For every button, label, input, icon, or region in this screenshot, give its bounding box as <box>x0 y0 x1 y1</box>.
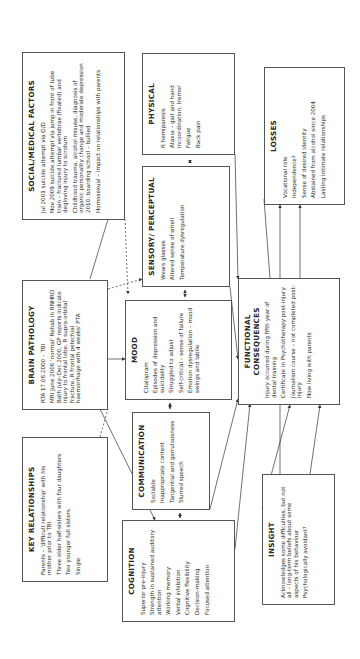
list-item: Jul 2001 suicide attempt via O/D <box>40 59 47 213</box>
list-item: Emotion dysregulation – mood swings and … <box>187 307 200 393</box>
list-item: Citalopram <box>143 307 150 393</box>
list-item: Sociable <box>150 419 157 503</box>
list-item: Ataxia – gait and hand incoordination, t… <box>169 60 182 148</box>
formulation-diagram: SOCIAL/MEDICAL FACTORS Jul 2001 suicide … <box>0 0 360 659</box>
box-title: COMMUNICATION <box>138 419 147 503</box>
list-item: Independence? <box>291 74 298 198</box>
list-item: Three older half-sisters with four daugh… <box>56 444 63 575</box>
list-item: Focused attention <box>204 527 211 615</box>
list-item: Strength in sustained auditory attention <box>149 527 162 615</box>
list-item: Now living with parents <box>306 285 313 398</box>
box-title: LOSSES <box>270 74 279 198</box>
box-title: FUNCTIONAL CONSEQUENCES <box>244 285 261 398</box>
list-item: Nov 2009 suicide attempt via jump in fro… <box>49 59 69 213</box>
list-item: Acknowledges some difficulties, but not … <box>280 481 300 598</box>
list-item: Abstained from alcohol since 2004 <box>310 74 317 198</box>
list-item: Wears glasses <box>160 173 167 280</box>
cognition-box: COGNITION Superior pre-injury Strength i… <box>122 520 235 622</box>
list-item: Lasting intimate relationships <box>320 74 327 198</box>
social-medical-factors-box: SOCIAL/MEDICAL FACTORS Jul 2001 suicide … <box>22 52 125 220</box>
box-title: COGNITION <box>128 527 137 615</box>
list-item: R hemiparesis <box>160 60 167 148</box>
list-item: Parents – 'difficult relationship' with … <box>40 444 53 575</box>
list-item: Journalism course – not completed post-i… <box>290 285 303 398</box>
list-item: Injury occurred during fifth year of den… <box>264 285 277 398</box>
losses-box: LOSSES Vocational role Independence? Sen… <box>264 67 345 205</box>
insight-box: INSIGHT Acknowledges some difficulties, … <box>262 474 335 605</box>
box-title: SOCIAL/MEDICAL FACTORS <box>28 59 37 213</box>
sensory-perceptual-box: SENSORY/ PERCEPTUAL Wears glasses Altere… <box>142 166 230 287</box>
list-item: Episodes of depression and suicidality <box>152 307 165 393</box>
list-item: Altered sense of smell <box>169 173 176 280</box>
list-item: Verbal inhibition <box>175 527 182 615</box>
list-item: Back pain <box>195 60 202 148</box>
physical-box: PHYSICAL R hemiparesis Ataxia – gait and… <box>142 53 235 155</box>
box-title: KEY RELATIONSHIPS <box>28 444 37 575</box>
list-item: Vocational role <box>282 74 289 198</box>
key-relationships-box: KEY RELATIONSHIPS Parents – 'difficult r… <box>22 437 108 582</box>
list-item: Two younger full sisters <box>65 444 72 575</box>
list-item: Slurred speech <box>178 419 185 503</box>
box-title: BRAIN PATHOLOGY <box>28 287 37 403</box>
list-item: Homosexual – impact on relationships wit… <box>95 59 102 213</box>
list-item: Tangential and garrulousness <box>169 419 176 503</box>
list-item: Psychologically avoidant? <box>302 481 309 598</box>
list-item: Childhood trauma, alcohol misuse, diagno… <box>72 59 92 213</box>
list-item: Self-critical – sense of failure <box>178 307 185 393</box>
list-item: Working memory <box>165 527 172 615</box>
mood-box: MOOD Citalopram Episodes of depression a… <box>125 300 232 400</box>
list-item: Single <box>75 444 82 575</box>
list-item: Temperature dysregulation <box>179 173 186 280</box>
box-title: INSIGHT <box>268 481 277 598</box>
list-item: Cognitive flexibility <box>184 527 191 615</box>
list-item: Decision-making <box>194 527 201 615</box>
box-title: MOOD <box>131 307 140 393</box>
list-item: MRI June 2006 'normal' Rehab in RNHRD Ba… <box>49 287 82 403</box>
list-item: Sense of desired identity <box>301 74 308 198</box>
communication-box: COMMUNICATION Sociable Inappropriate con… <box>132 412 210 510</box>
list-item: Fatigue <box>185 60 192 148</box>
functional-consequences-box: FUNCTIONAL CONSEQUENCES Injury occurred … <box>238 278 340 405</box>
list-item: Struggled to adjust <box>168 307 175 393</box>
brain-pathology-box: BRAIN PATHOLOGY RTA 17.06.2000 – TBI MRI… <box>22 280 108 410</box>
box-title: PHYSICAL <box>148 60 157 148</box>
list-item: Superior pre-injury <box>140 527 147 615</box>
list-item: Certificate in Psychotherapy post-injury <box>280 285 287 398</box>
box-title: SENSORY/ PERCEPTUAL <box>148 173 157 280</box>
list-item: Inappropriate content <box>159 419 166 503</box>
list-item: RTA 17.06.2000 – TBI <box>40 287 47 403</box>
